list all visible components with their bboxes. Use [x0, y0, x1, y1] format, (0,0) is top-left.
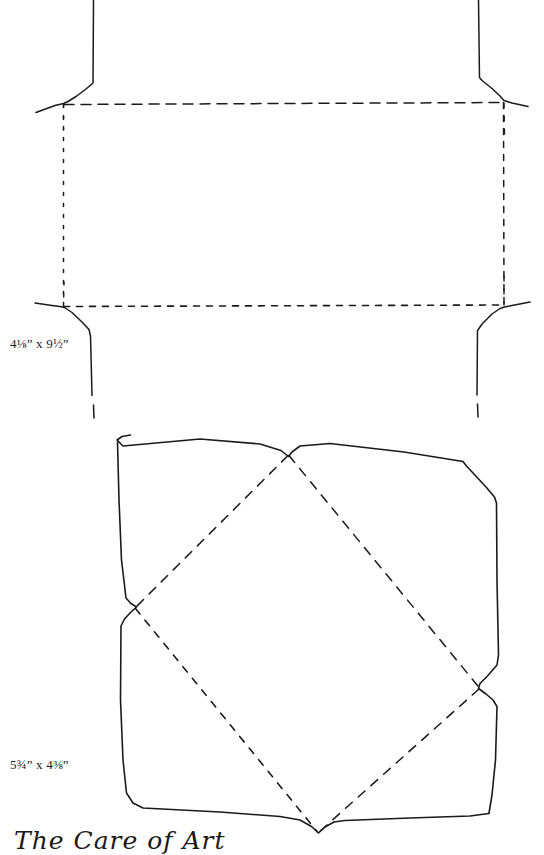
square-outline-left-half — [118, 442, 490, 833]
diamond-fold-top-left — [136, 456, 289, 608]
diamond-fold-bottom-right — [319, 689, 480, 833]
bottom-figure-dimension-label: 5¾” x 4⅜” — [10, 757, 69, 773]
square-envelope-svg — [0, 0, 544, 855]
diamond-fold-bottom-left — [136, 609, 318, 833]
diagram-page: 4⅛” x 9½” 5¾” x 4⅜” The Care of Art — [0, 0, 544, 855]
square-outline-right-half — [117, 435, 499, 813]
square-envelope-template — [0, 0, 544, 855]
diamond-fold-top-right — [289, 456, 480, 689]
figure-caption: The Care of Art — [14, 824, 226, 855]
